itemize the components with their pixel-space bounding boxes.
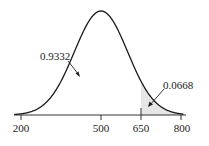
tick-label-650: 650	[133, 122, 150, 134]
tick-label-500: 500	[93, 122, 110, 134]
annotation-left-area: 0.9332	[40, 50, 70, 62]
annotation-right-area: 0.0668	[163, 79, 194, 91]
tick-label-800: 800	[174, 122, 191, 134]
normal-curve	[14, 11, 183, 114]
arrow-right-area	[150, 89, 164, 105]
tick-label-200: 200	[13, 122, 30, 134]
arrowhead-left-icon	[76, 72, 81, 78]
normal-distribution-chart: 200 500 650 800 0.9332 0.0668	[0, 0, 209, 146]
